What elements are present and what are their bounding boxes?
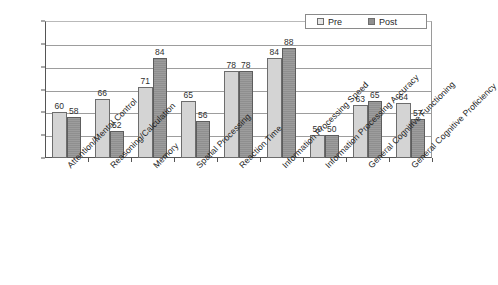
- bar-value-label: 78: [241, 60, 250, 70]
- bar-post: [282, 48, 297, 158]
- x-axis-tick-mark: [174, 158, 175, 162]
- x-axis-tick-mark: [389, 158, 390, 162]
- x-axis-tick-mark: [346, 158, 347, 162]
- bar-pre: [224, 71, 239, 158]
- x-axis-tick-mark: [303, 158, 304, 162]
- x-axis-tick-mark: [217, 158, 218, 162]
- bar-value-label: 65: [184, 90, 193, 100]
- legend-item-post: Post: [368, 17, 397, 27]
- legend-swatch-post-icon: [368, 18, 375, 25]
- x-axis-tick-mark: [260, 158, 261, 162]
- bar-value-label: 60: [55, 101, 64, 111]
- bar-value-label: 66: [98, 88, 107, 98]
- legend-item-pre: Pre: [317, 17, 342, 27]
- bar-value-label: 56: [198, 110, 207, 120]
- legend-label-pre: Pre: [328, 17, 342, 27]
- chart-legend: Pre Post: [305, 14, 427, 29]
- bar-value-label: 84: [155, 47, 164, 57]
- bar-value-label: 88: [284, 37, 293, 47]
- x-axis-tick-mark: [131, 158, 132, 162]
- bar-value-label: 71: [141, 76, 150, 86]
- bar-value-label: 58: [69, 106, 78, 116]
- bar-value-label: 84: [270, 47, 279, 57]
- bar-pre: [52, 112, 67, 158]
- x-axis-tick-mark: [88, 158, 89, 162]
- bar-value-label: 78: [227, 60, 236, 70]
- x-axis-tick-mark: [432, 158, 433, 162]
- legend-label-post: Post: [379, 17, 397, 27]
- legend-swatch-pre-icon: [317, 18, 324, 25]
- bar-value-label: 65: [370, 90, 379, 100]
- bar-pre: [181, 101, 196, 158]
